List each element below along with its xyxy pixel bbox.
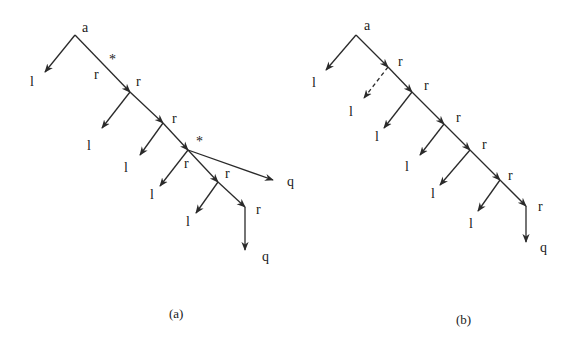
tree-diagram-b: llllllqarrrrrr	[312, 18, 547, 255]
edge-label-l: l	[87, 138, 91, 153]
left-edge	[196, 182, 218, 213]
right-edge	[130, 92, 163, 123]
edge-label-l: l	[349, 104, 353, 119]
star-marker: *	[109, 52, 116, 67]
right-edge	[163, 123, 188, 150]
left-edge	[45, 35, 75, 72]
node-label-r: r	[424, 78, 429, 93]
tree-diagram-canvas: llllqlqarrrrr*r* llllllqarrrrrr (a) (b)	[0, 0, 575, 341]
right-edge	[218, 182, 245, 207]
node-label-r: r	[256, 202, 261, 217]
extra-label: r	[94, 67, 99, 82]
caption-b: (b)	[456, 312, 471, 327]
root-label: a	[364, 18, 371, 33]
left-edge	[478, 180, 500, 211]
edge-label-l: l	[312, 75, 316, 90]
right-edge	[75, 35, 130, 92]
node-label-r: r	[398, 54, 403, 69]
node-label-r: r	[225, 166, 230, 181]
right-edge	[444, 124, 470, 150]
left-edge	[384, 92, 412, 128]
edge-label-l: l	[124, 160, 128, 175]
right-edge	[470, 150, 500, 180]
q-edge	[188, 150, 273, 180]
node-label-r: r	[184, 156, 189, 171]
node-label-r: r	[172, 111, 177, 126]
left-edge-dashed	[364, 67, 388, 98]
edge-label-q: q	[287, 174, 294, 189]
edge-label-l: l	[375, 129, 379, 144]
node-label-r: r	[136, 74, 141, 89]
edge-label-q: q	[262, 249, 269, 264]
star-marker: *	[196, 134, 203, 149]
edge-label-l: l	[405, 159, 409, 174]
edge-label-l: l	[150, 187, 154, 202]
root-label: a	[82, 20, 89, 35]
node-label-r: r	[456, 110, 461, 125]
node-label-r: r	[508, 168, 513, 183]
left-edge	[102, 92, 130, 128]
left-edge	[326, 35, 356, 70]
edge-label-q: q	[540, 240, 547, 255]
right-edge	[356, 35, 388, 67]
edge-label-l: l	[30, 74, 34, 89]
caption-a: (a)	[169, 306, 183, 321]
node-label-r: r	[538, 199, 543, 214]
right-edge	[388, 67, 412, 92]
edge-label-l: l	[431, 186, 435, 201]
tree-diagram-a: llllqlqarrrrr*r*	[30, 20, 294, 264]
left-edge	[420, 124, 444, 155]
right-edge	[412, 92, 444, 124]
edge-label-l: l	[469, 216, 473, 231]
left-edge	[440, 150, 470, 185]
left-edge	[140, 123, 163, 155]
edge-label-l: l	[186, 214, 190, 229]
node-label-r: r	[482, 137, 487, 152]
right-edge	[500, 180, 526, 206]
